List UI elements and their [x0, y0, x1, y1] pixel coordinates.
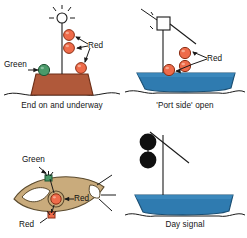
red-all-round-light	[51, 194, 61, 204]
red-light-top	[179, 47, 190, 58]
label-red-lower-panel3: Red	[19, 220, 34, 229]
green-sidelight	[38, 64, 49, 75]
figure-canvas: Green Red End on and underway	[0, 0, 247, 238]
label-green-panel1: Green	[4, 60, 27, 69]
caption-panel-2: 'Port side' open	[123, 101, 247, 110]
boom	[170, 24, 196, 44]
red-sidelight	[76, 63, 87, 74]
caption-panel-4: Day signal	[123, 220, 247, 229]
panel-day-signal: Day signal	[123, 119, 247, 238]
label-red-centre-panel3: Red	[74, 194, 89, 203]
masthead-light-icon	[57, 13, 67, 23]
panel-end-on-underway: Green Red End on and underway	[0, 0, 124, 119]
panel-port-side-open: Red 'Port side' open	[123, 0, 247, 119]
label-red-panel2: Red	[207, 54, 222, 63]
hull-blue-sheer	[135, 195, 233, 199]
red-light-low-highlight	[165, 67, 169, 69]
red-light-upper-highlight	[66, 32, 69, 34]
hull-blue-sheer	[137, 73, 235, 77]
red-light-middle-highlight	[181, 63, 185, 65]
hull-brown	[31, 74, 93, 95]
leader-green	[39, 167, 47, 174]
green-sidelight-highlight	[41, 67, 44, 69]
red-light-middle-highlight	[66, 45, 69, 47]
black-ball-lower	[140, 152, 157, 169]
leader-red-lower	[40, 218, 47, 223]
label-green-panel3: Green	[22, 155, 45, 164]
leader-green	[28, 68, 39, 72]
red-light-upper	[64, 30, 75, 41]
red-sidelight-highlight	[78, 65, 81, 67]
panel-plan-view: Green Red Red	[0, 119, 124, 238]
caption-panel-1: End on and underway	[0, 101, 124, 110]
rigging-lines	[141, 9, 157, 29]
square-shape-icon	[157, 17, 170, 30]
red-light-middle	[64, 43, 75, 54]
red-light-top-highlight	[181, 50, 185, 52]
label-red-panel1: Red	[88, 41, 103, 50]
black-ball-upper	[140, 134, 157, 151]
red-light-low	[163, 64, 174, 75]
red-all-round-highlight	[53, 196, 56, 198]
